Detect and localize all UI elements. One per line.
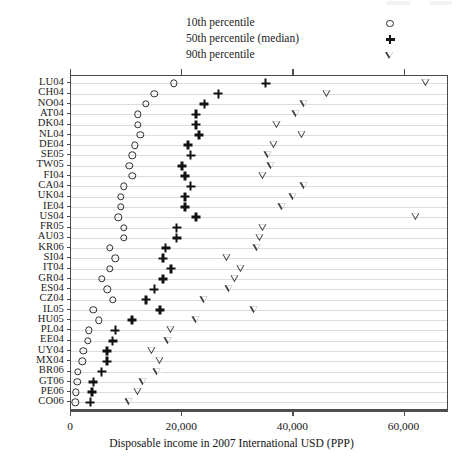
data-point-circle-icon <box>151 90 158 97</box>
data-point-plus-icon <box>180 202 189 211</box>
gridline <box>71 104 447 105</box>
x-axis-tick-label: 20,000 <box>166 420 197 432</box>
y-axis-tick <box>67 391 71 392</box>
data-point-circle-icon <box>80 347 87 354</box>
data-point-triangle-down-icon <box>258 172 267 179</box>
x-axis-line <box>70 410 448 412</box>
data-point-triangle-down-icon <box>267 162 276 169</box>
y-axis-tick <box>67 154 71 155</box>
y-axis-tick <box>67 165 71 166</box>
data-point-circle-icon <box>120 224 127 231</box>
circle-icon <box>382 14 398 30</box>
data-point-triangle-down-icon <box>166 327 175 334</box>
y-axis-tick <box>67 196 71 197</box>
data-point-plus-icon <box>180 192 189 201</box>
gridline <box>71 269 447 270</box>
plus-icon <box>382 30 398 46</box>
data-point-circle-icon <box>84 337 91 344</box>
y-axis-label: CO06 <box>0 396 64 407</box>
gridline <box>71 300 447 301</box>
gridline <box>71 94 447 95</box>
data-point-circle-icon <box>134 121 141 128</box>
x-axis-tick <box>70 410 71 416</box>
gridline <box>71 125 447 126</box>
data-point-plus-icon <box>192 110 201 119</box>
data-point-plus-icon <box>142 295 151 304</box>
data-point-plus-icon <box>89 377 98 386</box>
gridline <box>71 392 447 393</box>
y-axis-tick <box>67 329 71 330</box>
data-point-plus-icon <box>186 151 195 160</box>
data-point-circle-icon <box>73 378 80 385</box>
data-point-circle-icon <box>85 327 92 334</box>
data-point-triangle-down-icon <box>125 399 134 406</box>
data-point-plus-icon <box>128 316 137 325</box>
scan-artifact <box>386 1 410 5</box>
data-point-triangle-down-icon <box>250 306 259 313</box>
scan-artifact <box>430 1 452 5</box>
data-point-circle-icon <box>117 203 124 210</box>
y-axis-tick <box>67 401 71 402</box>
data-point-circle-icon <box>109 296 116 303</box>
x-axis-tick-top <box>70 69 71 75</box>
y-axis-tick <box>67 319 71 320</box>
data-point-plus-icon <box>261 79 270 88</box>
y-axis-tick <box>67 134 71 135</box>
data-point-plus-icon <box>103 347 112 356</box>
data-point-plus-icon <box>194 130 203 139</box>
x-axis-tick-label: 60,000 <box>388 420 419 432</box>
data-point-plus-icon <box>97 367 106 376</box>
y-axis-tick <box>67 113 71 114</box>
x-axis-tick-top <box>404 69 405 75</box>
y-axis-tick <box>67 247 71 248</box>
y-axis-tick <box>67 124 71 125</box>
data-point-triangle-down-icon <box>147 347 156 354</box>
triangle-down-icon <box>382 46 398 62</box>
data-point-triangle-down-icon <box>253 244 262 251</box>
y-axis-tick <box>67 103 71 104</box>
data-point-circle-icon <box>90 306 97 313</box>
y-axis-tick <box>67 175 71 176</box>
gridline <box>71 341 447 342</box>
x-axis-tick-top <box>292 69 293 75</box>
data-point-circle-icon <box>72 399 79 406</box>
gridline <box>71 217 447 218</box>
data-point-circle-icon <box>137 131 144 138</box>
data-point-triangle-down-icon <box>133 388 142 395</box>
y-axis-tick <box>67 278 71 279</box>
data-point-circle-icon <box>170 80 177 87</box>
gridline <box>71 372 447 373</box>
gridline <box>71 155 447 156</box>
data-point-plus-icon <box>86 398 95 407</box>
data-point-plus-icon <box>180 172 189 181</box>
data-point-triangle-down-icon <box>300 100 309 107</box>
y-axis-tick <box>67 371 71 372</box>
data-point-circle-icon <box>95 316 102 323</box>
gridline <box>71 258 447 259</box>
data-point-circle-icon <box>126 162 133 169</box>
figure-container: 10th percentile50th percentile (median)9… <box>0 0 463 456</box>
data-point-plus-icon <box>172 223 181 232</box>
data-point-circle-icon <box>78 358 85 365</box>
gridline <box>71 330 447 331</box>
data-point-plus-icon <box>88 388 97 397</box>
data-point-circle-icon <box>112 255 119 262</box>
data-point-circle-icon <box>98 275 105 282</box>
y-axis-tick <box>67 309 71 310</box>
data-point-triangle-down-icon <box>230 275 239 282</box>
data-point-plus-icon <box>158 254 167 263</box>
data-point-triangle-down-icon <box>421 80 430 87</box>
y-axis-tick <box>67 360 71 361</box>
data-point-plus-icon <box>200 99 209 108</box>
data-point-triangle-down-icon <box>292 111 301 118</box>
gridline <box>71 382 447 383</box>
data-point-plus-icon <box>192 213 201 222</box>
data-point-plus-icon <box>186 182 195 191</box>
data-point-circle-icon <box>120 183 127 190</box>
data-point-triangle-down-icon <box>155 358 164 365</box>
y-axis-tick <box>67 144 71 145</box>
data-point-circle-icon <box>74 368 81 375</box>
data-point-triangle-down-icon <box>322 90 331 97</box>
x-axis-tick <box>404 410 405 416</box>
x-axis-tick-label: 0 <box>67 420 73 432</box>
